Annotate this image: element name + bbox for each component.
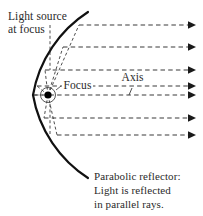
focus-dot (44, 91, 51, 98)
axis-label-text: Axis (120, 71, 145, 83)
arrowhead-4 (188, 82, 196, 90)
arrowhead-3 (188, 66, 196, 74)
focus-label-text: Focus (62, 79, 93, 91)
arrowhead-1 (188, 21, 196, 29)
arrowhead-5 (188, 91, 196, 99)
axis-leader-line (129, 88, 132, 95)
ray-arrowheads-group (188, 21, 196, 139)
light-source-label: Light source at focus (8, 10, 67, 36)
caption-line-3: in parallel rays. (94, 198, 181, 212)
arrowhead-7 (188, 131, 196, 139)
caption-line-1: Parabolic reflector: (94, 170, 181, 184)
arrowhead-6 (188, 114, 196, 122)
figure-caption: Parabolic reflector: Light is reflected … (94, 170, 181, 211)
focus-label: Focus (62, 79, 93, 92)
light-source-label-line1: Light source (8, 10, 67, 23)
arrowhead-2 (188, 43, 196, 51)
axis-label: Axis (120, 71, 145, 84)
focus-leader-line (56, 86, 61, 90)
caption-line-2: Light is reflected (94, 184, 181, 198)
parabolic-reflector-figure: Light source at focus Focus Axis Parabol… (0, 0, 203, 216)
incident-ray-3 (45, 70, 48, 95)
light-source-label-line2: at focus (8, 23, 67, 36)
